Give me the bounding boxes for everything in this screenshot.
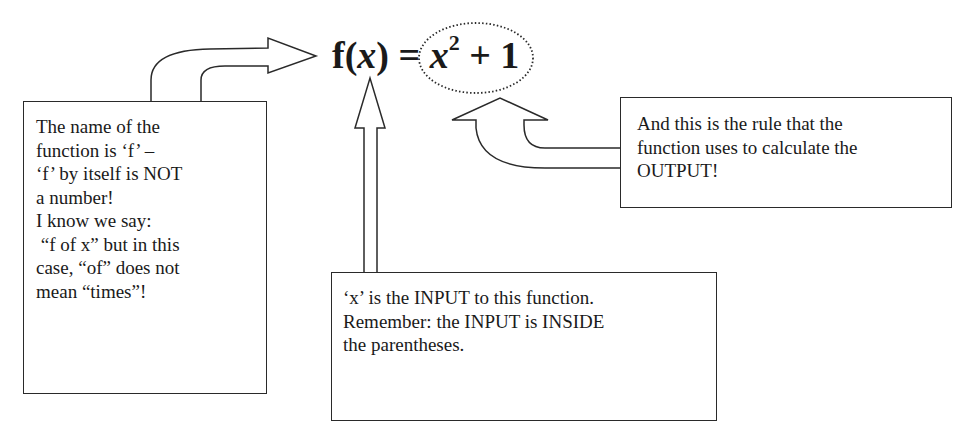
- callout-rule: And this is the rule that the function u…: [620, 97, 952, 208]
- curved-arrow-to-rule-icon: [452, 98, 620, 168]
- callout-line: “f of x” but in this: [36, 233, 256, 257]
- close-paren: ): [376, 34, 389, 76]
- callout-line: Remember: the INPUT is INSIDE: [343, 310, 708, 334]
- callout-line: ‘x’ is the INPUT to this function.: [343, 286, 708, 310]
- up-arrow-to-input-icon: [355, 78, 385, 272]
- callout-line: function is ‘f’ –: [36, 139, 256, 163]
- callout-line: ‘f’ by itself is NOT: [36, 162, 256, 186]
- input-variable: x: [357, 34, 376, 76]
- equals-sign: =: [389, 34, 430, 76]
- callout-line: OUTPUT!: [637, 159, 943, 183]
- rule-base: x: [430, 34, 449, 76]
- callout-line: the parentheses.: [343, 333, 708, 357]
- callout-line: mean “times”!: [36, 280, 256, 304]
- callout-input: ‘x’ is the INPUT to this function. Remem…: [331, 272, 717, 421]
- callout-line: case, “of” does not: [36, 256, 256, 280]
- callout-line: function uses to calculate the: [637, 136, 943, 160]
- curved-arrow-to-name-icon: [151, 38, 316, 101]
- open-paren: (: [345, 34, 358, 76]
- rule-exponent: 2: [449, 30, 460, 55]
- callout-function-name: The name of the function is ‘f’ – ‘f’ by…: [23, 101, 267, 394]
- rule-tail: + 1: [460, 34, 520, 76]
- callout-line: The name of the: [36, 115, 256, 139]
- callout-line: I know we say:: [36, 209, 256, 233]
- callout-line: a number!: [36, 186, 256, 210]
- callout-line: And this is the rule that the: [637, 112, 943, 136]
- function-name: f: [332, 34, 345, 76]
- function-formula: f(x) = x2 + 1: [332, 33, 519, 77]
